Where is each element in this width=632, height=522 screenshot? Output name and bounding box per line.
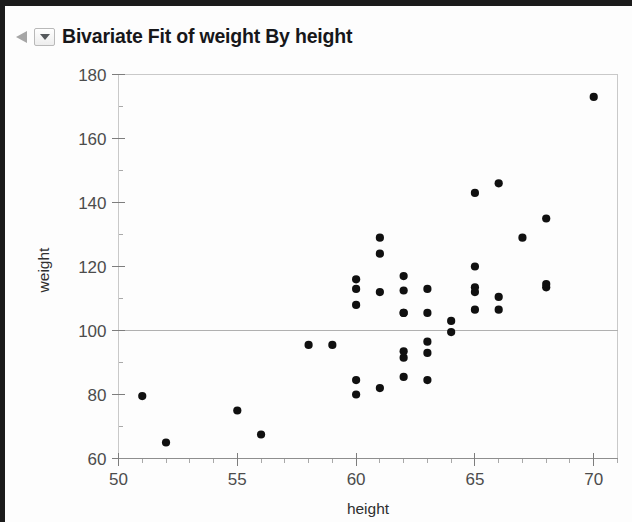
report-header: Bivariate Fit of weight By height [12, 22, 612, 52]
y-axis-tick-label: 60 [88, 450, 107, 469]
data-point[interactable] [138, 392, 146, 400]
data-point[interactable] [447, 328, 455, 336]
scatter-plot-svg[interactable]: 6080100120140160180 5055606570 weight he… [5, 58, 632, 522]
data-point[interactable] [495, 179, 503, 187]
data-point[interactable] [352, 390, 360, 398]
data-point[interactable] [423, 338, 431, 346]
chevron-down-glyph [40, 34, 50, 40]
data-point[interactable] [400, 373, 408, 381]
data-point[interactable] [162, 438, 170, 446]
y-axis-title: weight [35, 247, 52, 293]
bivariate-fit-window: Bivariate Fit of weight By height 608010… [0, 0, 632, 522]
data-point[interactable] [471, 306, 479, 314]
y-axis-tick-label: 140 [78, 194, 106, 213]
y-axis-tick-labels: 6080100120140160180 [78, 66, 106, 469]
data-point[interactable] [400, 286, 408, 294]
data-point[interactable] [423, 349, 431, 357]
data-point[interactable] [328, 341, 336, 349]
data-point[interactable] [518, 234, 526, 242]
data-point-group[interactable] [138, 93, 598, 447]
data-point[interactable] [400, 309, 408, 317]
data-point[interactable] [257, 430, 265, 438]
data-point[interactable] [376, 288, 384, 296]
y-axis-tick-label: 180 [78, 66, 106, 85]
data-point[interactable] [352, 301, 360, 309]
data-point[interactable] [423, 309, 431, 317]
x-axis-tick-label: 55 [228, 470, 247, 489]
x-axis-tick-labels: 5055606570 [109, 470, 603, 489]
data-point[interactable] [447, 317, 455, 325]
x-axis-tick-label: 50 [109, 470, 128, 489]
y-axis-tick-label: 80 [88, 386, 107, 405]
data-point[interactable] [471, 189, 479, 197]
data-point[interactable] [376, 234, 384, 242]
data-point[interactable] [376, 384, 384, 392]
y-axis-tick-label: 100 [78, 322, 106, 341]
data-point[interactable] [542, 280, 550, 288]
disclosure-triangle-icon[interactable] [16, 31, 27, 43]
data-point[interactable] [233, 406, 241, 414]
data-point[interactable] [305, 341, 313, 349]
data-point[interactable] [423, 285, 431, 293]
data-point[interactable] [542, 214, 550, 222]
data-point[interactable] [495, 293, 503, 301]
x-axis-tick-label: 65 [465, 470, 484, 489]
x-axis-tick-label: 70 [584, 470, 603, 489]
data-point[interactable] [423, 376, 431, 384]
x-axis-title: height [347, 500, 390, 517]
scatter-plot-panel[interactable]: 6080100120140160180 5055606570 weight he… [5, 58, 632, 522]
data-point[interactable] [471, 262, 479, 270]
chevron-down-icon[interactable] [34, 28, 55, 46]
data-point[interactable] [590, 93, 598, 101]
page-title: Bivariate Fit of weight By height [62, 27, 352, 47]
data-point[interactable] [352, 376, 360, 384]
data-point[interactable] [495, 306, 503, 314]
plot-frame [119, 75, 618, 459]
data-point[interactable] [376, 250, 384, 258]
y-axis-tick-label: 160 [78, 130, 106, 149]
data-point[interactable] [352, 285, 360, 293]
data-point[interactable] [471, 283, 479, 291]
x-axis-tick-label: 60 [347, 470, 366, 489]
x-axis-ticks [119, 453, 618, 466]
data-point[interactable] [352, 275, 360, 283]
data-point[interactable] [400, 272, 408, 280]
y-axis-tick-label: 120 [78, 258, 106, 277]
data-point[interactable] [400, 347, 408, 355]
